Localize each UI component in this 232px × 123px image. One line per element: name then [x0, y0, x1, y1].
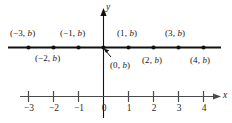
x-axis-number-line [20, 91, 221, 102]
point-label-1-b: (1, b) [117, 29, 137, 38]
x-axis-label: x [223, 91, 227, 101]
x-tick-label-neg1: −1 [70, 104, 88, 114]
x-tick-label-3: 3 [170, 104, 188, 114]
x-tick-label-1: 1 [120, 104, 138, 114]
point-label-2-b: (2, b) [142, 56, 162, 65]
y-axis-label: y [106, 3, 110, 13]
point-label-3-b: (3, b) [165, 29, 185, 38]
point-label-neg3-b: (−3, b) [10, 29, 35, 38]
point-label-0-b: (0, b) [110, 61, 130, 70]
x-tick-label-0: 0 [95, 104, 113, 114]
x-tick-label-2: 2 [145, 104, 163, 114]
coordinate-graph-figure: y x (−3, b) (−1, b) (1, b) (3, b) (−2, b… [0, 0, 232, 123]
leader-arrow-to-origin-point [104, 48, 111, 57]
point-label-neg2-b: (−2, b) [35, 54, 60, 63]
point-label-4-b: (4, b) [190, 56, 210, 65]
x-tick-label-neg3: −3 [20, 104, 38, 114]
x-tick-label-neg2: −2 [45, 104, 63, 114]
x-tick-label-4: 4 [195, 104, 213, 114]
point-label-neg1-b: (−1, b) [60, 29, 85, 38]
y-axis [100, 8, 106, 118]
